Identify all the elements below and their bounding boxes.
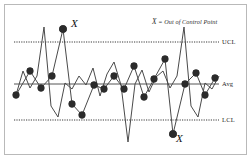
data-point	[202, 92, 209, 99]
data-point	[111, 73, 118, 80]
legend-note-symbol: X	[152, 17, 157, 26]
control-chart: X = Out of Control Point UCL Avg LCL X X	[0, 0, 252, 160]
data-point	[38, 85, 45, 92]
data-point	[212, 75, 219, 82]
data-point	[182, 81, 189, 88]
outlier-low-marker-label: X	[176, 132, 183, 144]
data-point	[69, 101, 76, 108]
data-point	[91, 82, 98, 89]
data-point	[121, 86, 128, 93]
data-point	[193, 70, 200, 77]
avg-label: Avg	[222, 80, 233, 87]
data-point	[79, 112, 86, 119]
data-point	[13, 92, 20, 99]
data-point-outlier-high	[59, 25, 67, 33]
legend-note: X = Out of Control Point	[152, 17, 217, 26]
outlier-high-marker-label: X	[71, 17, 78, 29]
lcl-label: LCL	[222, 116, 235, 123]
data-point	[141, 94, 148, 101]
ucl-label: UCL	[222, 38, 236, 45]
data-point	[101, 86, 108, 93]
data-point	[27, 68, 34, 75]
data-point	[151, 76, 158, 83]
data-point	[162, 56, 169, 63]
data-point	[131, 63, 138, 70]
legend-note-text: = Out of Control Point	[158, 18, 217, 25]
data-point	[49, 73, 56, 80]
